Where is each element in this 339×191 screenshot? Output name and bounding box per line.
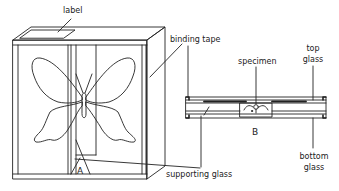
top-glass-callout-2: glass xyxy=(300,55,326,65)
box-side-face xyxy=(147,27,165,179)
panel-a-letter: A xyxy=(77,166,83,176)
box-label-plate xyxy=(20,30,75,38)
bottom-glass-callout-1: bottom xyxy=(298,152,330,162)
label-callout: label xyxy=(63,6,82,16)
specimen-callout: specimen xyxy=(238,57,277,67)
leader-binding-tape xyxy=(150,44,182,77)
leader-supporting-glass-a xyxy=(75,159,200,168)
butterfly-specimen xyxy=(32,58,135,142)
top-glass-callout-1: top xyxy=(303,44,323,54)
panel-b-letter: B xyxy=(252,127,258,137)
specimen-small xyxy=(244,105,268,113)
bottom-glass-callout-2: glass xyxy=(301,163,327,173)
binding-tape-callout: binding tape xyxy=(170,35,220,45)
specimen-mount-diagram xyxy=(0,0,339,191)
supporting-glass-callout: supporting glass xyxy=(166,170,232,180)
